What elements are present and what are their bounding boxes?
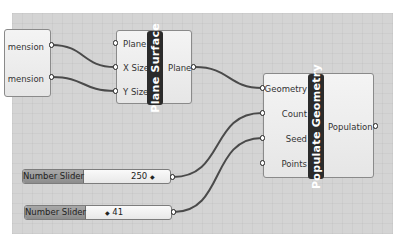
- input-grip-points[interactable]: [260, 160, 265, 166]
- input-label-x-size: X Size: [123, 63, 149, 73]
- input-grip-y-size[interactable]: [113, 88, 118, 94]
- slider-1-label: Number Slider: [23, 170, 84, 183]
- number-slider-2[interactable]: Number Slider ◆ 41: [24, 205, 172, 220]
- output-grip-slider-1[interactable]: [170, 174, 175, 180]
- input-grip-geometry[interactable]: [260, 85, 265, 91]
- input-grip-seed[interactable]: [260, 135, 265, 141]
- input-label-points: Points: [281, 159, 307, 169]
- output-grip-slider-2[interactable]: [171, 209, 176, 215]
- output-label-dimension-1: mension: [8, 42, 44, 52]
- output-grip-dimension-2[interactable]: [49, 74, 54, 80]
- number-slider-1[interactable]: Number Slider 250 ◆: [22, 169, 171, 184]
- output-label-population: Population: [328, 122, 373, 132]
- populate-geometry-title: Populate Geometry: [308, 74, 324, 179]
- slider-2-label: Number Slider: [25, 206, 86, 219]
- input-grip-x-size[interactable]: [113, 64, 118, 70]
- input-label-y-size: Y Size: [123, 87, 148, 97]
- input-grip-plane[interactable]: [113, 40, 118, 46]
- slider-1-handle-icon[interactable]: ◆: [150, 173, 155, 180]
- slider-2-handle-icon[interactable]: ◆: [105, 209, 110, 216]
- output-grip-population[interactable]: [373, 123, 378, 129]
- output-grip-dimension-1[interactable]: [49, 42, 54, 48]
- input-label-count: Count: [282, 109, 307, 119]
- plane-surface-title: Plane Surface: [147, 31, 163, 105]
- dimension-component[interactable]: mension mension: [4, 29, 51, 97]
- slider-2-value[interactable]: ◆ 41: [105, 206, 123, 219]
- output-label-plane: Plane: [168, 63, 191, 73]
- input-grip-count[interactable]: [260, 110, 265, 116]
- input-label-geometry: Geometry: [265, 84, 307, 94]
- input-label-plane: Plane: [123, 39, 146, 49]
- output-label-dimension-2: mension: [8, 74, 44, 84]
- input-label-seed: Seed: [286, 134, 307, 144]
- output-grip-plane[interactable]: [191, 64, 196, 70]
- slider-1-value[interactable]: 250 ◆: [131, 170, 155, 183]
